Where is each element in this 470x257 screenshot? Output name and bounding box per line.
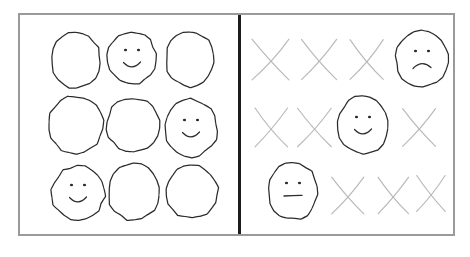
- right-cross-r1c1: [294, 103, 336, 151]
- right-cross-r1c3: [399, 103, 441, 151]
- right-cross-r0c1: [298, 35, 340, 83]
- left-circle-r1c0: [45, 92, 107, 158]
- outer-frame: [18, 13, 455, 236]
- right-cross-r1c0: [250, 103, 292, 151]
- left-circle-r0c0: [45, 27, 107, 93]
- left-circle-r1c1: [102, 92, 164, 158]
- right-cross-r2c3: [410, 169, 452, 217]
- right-cross-r0c2: [345, 35, 387, 83]
- diagram-canvas: [0, 0, 470, 257]
- left-circle-smile-face-r1c2: [160, 95, 222, 161]
- right-cross-r0c0: [250, 35, 292, 83]
- crosses-panel: [241, 15, 453, 234]
- left-circle-r2c1: [103, 159, 165, 225]
- left-circle-smile-face-r2c0: [47, 160, 109, 226]
- left-circle-smile-face-r0c1: [101, 25, 163, 91]
- right-circle-frown-face-r0c3: [391, 26, 453, 92]
- right-circle-smile-face-r1c2: [332, 92, 394, 158]
- right-cross-r2c2: [373, 171, 415, 219]
- left-circle-r2c2: [161, 159, 223, 225]
- circles-panel: [20, 15, 238, 234]
- left-circle-r0c2: [159, 26, 221, 92]
- right-circle-neutral-face-r2c0: [262, 158, 324, 224]
- right-cross-r2c1: [328, 171, 370, 219]
